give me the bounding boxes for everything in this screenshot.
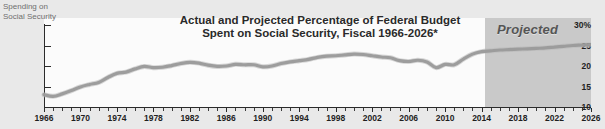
series-line — [44, 45, 591, 97]
x-tick-2026 — [591, 108, 592, 112]
